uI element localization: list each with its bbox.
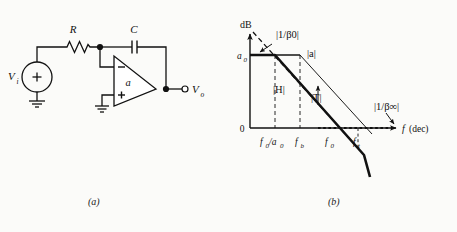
x-tick-f0-sub: 0 [331, 142, 335, 150]
y-tick-a0-sub: 0 [244, 56, 248, 64]
input-source-label-sub: i [17, 77, 19, 86]
resistor-symbol [64, 42, 100, 53]
figure-canvas: R C a V i V o [0, 0, 457, 232]
bode-plot: a 0 0 dB f (dec) f 0 /a 0 f b f 0 [237, 19, 429, 177]
x-tick-fb-sub: b [301, 142, 305, 150]
x-axis-title-unit: (dec) [409, 124, 429, 135]
leader-one-over-beta-inf [386, 113, 394, 124]
y-tick-a0-main: a [237, 51, 242, 61]
output-voltage-label-main: V [192, 83, 200, 95]
series-line-loop-gain-T [250, 55, 370, 177]
series-label-closed-loop-H: |H| [273, 84, 285, 95]
x-tick-fb-f: f [295, 137, 299, 147]
ground-symbol-input [29, 101, 45, 107]
y-tick-zero: 0 [240, 124, 245, 134]
subcaption-a: (a) [88, 196, 100, 207]
subcaption-b: (b) [328, 196, 340, 207]
x-tick-f0-over-a0: f 0 /a 0 [260, 137, 284, 150]
series-label-open-loop-a: |a| [307, 48, 316, 59]
x-tick-f0-over-a0-f: f [260, 137, 264, 147]
opamp-triangle [114, 56, 156, 106]
x-tick-ft-sub: t [358, 142, 361, 150]
x-tick-f0: f 0 [325, 137, 335, 150]
output-terminal [182, 86, 188, 92]
capacitor-symbol [132, 41, 137, 54]
resistor-label: R [69, 23, 77, 35]
wire-source-to-resistor [37, 47, 64, 62]
x-axis-title-var: f [402, 123, 406, 134]
series-label-one-over-beta-inf: |1/β∞| [374, 101, 399, 112]
ground-symbol-opamp [95, 106, 109, 112]
x-tick-f0-over-a0-div: /a [268, 137, 277, 147]
y-tick-a0: a 0 [237, 51, 248, 64]
output-voltage-label: V o [192, 83, 205, 99]
output-voltage-label-sub: o [201, 90, 205, 99]
series-label-one-over-beta0: |1/β0| [276, 29, 299, 40]
opamp-gain-label: a [125, 77, 130, 88]
x-tick-f0-f: f [325, 137, 329, 147]
input-source-label-main: V [8, 70, 16, 82]
capacitor-label: C [130, 23, 138, 35]
wire-noninverting-to-ground [102, 95, 114, 106]
x-tick-fb: f b [295, 137, 305, 150]
circuit-schematic: R C a V i V o [8, 23, 205, 112]
input-source-label: V i [8, 70, 19, 86]
x-tick-f0-over-a0-divsub: 0 [280, 142, 284, 150]
series-label-loop-gain-T: |T| [311, 92, 322, 103]
wire-node-to-inverting-input [100, 47, 114, 67]
source-plus-icon [33, 73, 42, 82]
y-axis-title: dB [240, 19, 252, 30]
x-axis-title: f (dec) [402, 123, 429, 135]
